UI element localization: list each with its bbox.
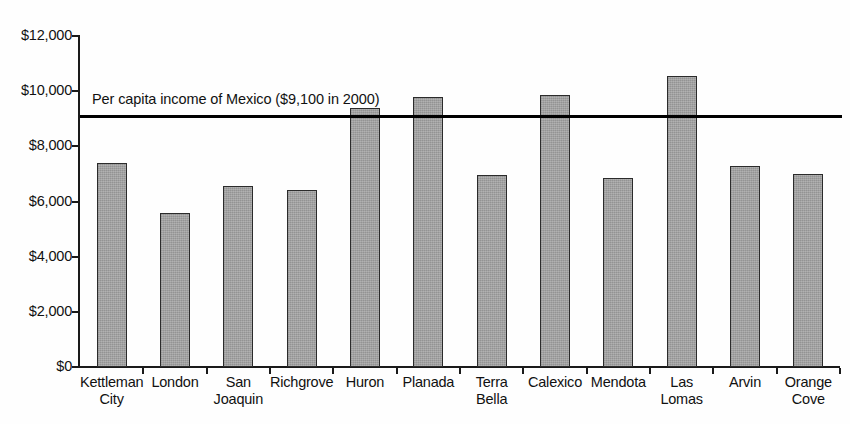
bar [350,108,380,367]
bar [540,95,570,367]
y-tick-label: $0 [4,359,72,373]
y-tick-label: $4,000 [4,249,72,263]
y-tick-mark [72,256,80,258]
x-tick-mark [206,368,208,374]
x-tick-mark [332,368,334,374]
y-tick-mark [72,366,80,368]
x-tick-mark [839,368,841,374]
x-tick-mark [712,368,714,374]
bar [667,76,697,367]
bar [730,166,760,367]
y-axis: $12,000$10,000$8,000$6,000$4,000$2,000$0 [0,0,72,424]
category-label-line2: Lomas [644,391,719,408]
y-tick-mark [72,201,80,203]
bar [97,163,127,367]
bar-chart: $12,000$10,000$8,000$6,000$4,000$2,000$0… [0,0,850,424]
category-label-line2: Bella [454,391,529,408]
category-label-line1: Kettleman [80,374,144,390]
y-tick-label: $6,000 [4,194,72,208]
y-tick-label: $10,000 [4,83,72,97]
category-label-line1: Arvin [729,374,761,390]
x-tick-mark [269,368,271,374]
x-tick-mark [396,368,398,374]
category-label-line1: Huron [346,374,385,390]
category-label-line2: City [74,391,149,408]
x-axis-category-label: OrangeCove [771,374,846,408]
x-tick-mark [522,368,524,374]
bar [223,186,253,367]
category-label-line1: Calexico [528,374,582,390]
bar [413,97,443,367]
y-tick-label: $8,000 [4,138,72,152]
y-tick-label: $12,000 [4,28,72,42]
y-tick-mark [72,145,80,147]
category-label-line2: Cove [771,391,846,408]
category-label-line1: Planada [402,374,454,390]
bar [793,174,823,367]
y-tick-mark [72,35,80,37]
y-tick-label: $2,000 [4,304,72,318]
bar [477,175,507,367]
category-label-line1: Richgrove [270,374,333,390]
mexico-reference-label: Per capita income of Mexico ($9,100 in 2… [92,91,379,107]
category-label-line1: London [151,374,198,390]
category-label-line1: San [226,374,251,390]
x-tick-mark [459,368,461,374]
x-tick-mark [586,368,588,374]
category-label-line1: Las [670,374,693,390]
x-tick-mark [776,368,778,374]
x-tick-mark [649,368,651,374]
y-tick-mark [72,90,80,92]
bar [603,178,633,367]
category-label-line2: Joaquin [201,391,276,408]
mexico-reference-line [80,115,842,118]
bar [160,213,190,367]
category-label-line1: Terra [476,374,508,390]
category-label-line1: Mendota [591,374,646,390]
category-label-line1: Orange [785,374,832,390]
plot-area [80,36,840,367]
y-tick-mark [72,311,80,313]
bar [287,190,317,367]
x-tick-mark [142,368,144,374]
x-axis-category-labels: KettlemanCityLondonSanJoaquinRichgroveHu… [80,374,840,422]
